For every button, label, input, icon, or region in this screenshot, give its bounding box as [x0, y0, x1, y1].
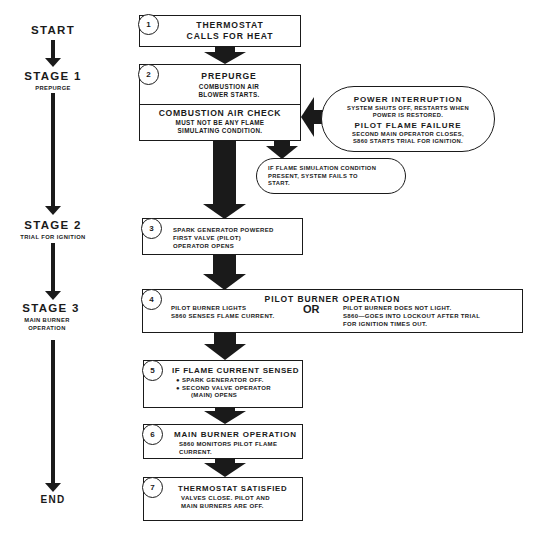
step-1-title-line-2: CALLS FOR HEAT	[160, 31, 300, 42]
step-6-number-badge: 6	[142, 424, 163, 445]
step-2-number-badge: 2	[138, 64, 159, 85]
step-2-box: PREPURGE COMBUSTION AIR BLOWER STARTS. C…	[139, 64, 301, 141]
arrow-down-icon	[266, 140, 298, 159]
step-7-line-1: VALVES CLOSE. PILOT AND	[181, 495, 270, 503]
power-interruption-title: POWER INTERRUPTION	[322, 95, 494, 104]
pilot-flame-failure-title: PILOT FLAME FAILURE	[322, 121, 494, 130]
step-4-left-line-1: PILOT BURNER LIGHTS	[171, 304, 274, 312]
step-4-left-line-2: S860 SENSES FLAME CURRENT.	[171, 312, 274, 320]
step-5-number-badge: 5	[142, 360, 163, 381]
step-5-box: IF FLAME CURRENT SENSED ● SPARK GENERATO…	[143, 360, 303, 408]
step-6-box: MAIN BURNER OPERATION S860 MONITORS PILO…	[143, 424, 303, 459]
step-2-title: PREPURGE	[158, 71, 300, 81]
arrow-down-icon	[203, 254, 246, 290]
combustion-air-check-line-2: SIMULATING CONDITION.	[140, 127, 300, 135]
step-1-box: THERMOSTAT CALLS FOR HEAT	[139, 15, 301, 47]
flame-simulation-note: IF FLAME SIMULATION CONDITION PRESENT, S…	[256, 158, 406, 194]
arrow-down-icon	[204, 46, 246, 64]
step-5-continuation: (MAIN) OPENS	[176, 392, 271, 400]
pilot-flame-failure-line-1: SECOND MAIN OPERATOR CLOSES,	[322, 131, 494, 138]
step-7-title: THERMOSTAT SATISFIED	[178, 484, 287, 493]
combustion-air-check-title: COMBUSTION AIR CHECK	[140, 108, 300, 118]
arrow-down-icon	[204, 407, 246, 424]
step-4-title: PILOT BURNER OPERATION	[143, 294, 522, 304]
flame-sim-line-2: PRESENT, SYSTEM FAILS TO	[268, 173, 376, 181]
step-3-box: SPARK GENERATOR POWERED FIRST VALVE (PIL…	[142, 218, 303, 255]
step-7-box: THERMOSTAT SATISFIED VALVES CLOSE. PILOT…	[143, 477, 303, 521]
combustion-air-check-line-1: MUST NOT BE ANY FLAME	[140, 119, 300, 127]
arrow-down-icon	[203, 140, 246, 219]
step-4-right-line-3: FOR IGNITION TIMES OUT.	[343, 320, 480, 328]
step-7-line-2: MAIN BURNERS ARE OFF.	[181, 503, 270, 511]
step-6-title: MAIN BURNER OPERATION	[174, 430, 297, 439]
divider	[140, 104, 300, 105]
step-3-line-2: FIRST VALVE (PILOT)	[173, 234, 274, 242]
step-4-number-badge: 4	[141, 289, 162, 310]
flame-sim-line-3: START.	[268, 180, 376, 188]
step-1-title-line-1: THERMOSTAT	[160, 20, 300, 31]
step-5-title: IF FLAME CURRENT SENSED	[172, 366, 299, 375]
step-6-line-2: CURRENT.	[179, 449, 277, 457]
step-7-number-badge: 7	[142, 477, 163, 498]
power-interruption-line-1: SYSTEM SHUTS OFF, RESTARTS WHEN	[322, 105, 494, 112]
pilot-flame-failure-line-2: S860 STARTS TRIAL FOR IGNITION.	[322, 138, 494, 145]
step-5-bullet-2: ● SECOND VALVE OPERATOR	[176, 385, 271, 393]
interrupt-note: POWER INTERRUPTION SYSTEM SHUTS OFF, RES…	[321, 86, 495, 152]
step-3-number-badge: 3	[141, 218, 162, 239]
step-4-right-line-2: S860—GOES INTO LOCKOUT AFTER TRIAL	[343, 312, 480, 320]
step-4-right-line-1: PILOT BURNER DOES NOT LIGHT.	[343, 304, 480, 312]
step-4-box: PILOT BURNER OPERATION PILOT BURNER LIGH…	[142, 289, 523, 333]
step-6-line-1: S860 MONITORS PILOT FLAME	[179, 441, 277, 449]
step-2-body-line-2: BLOWER STARTS.	[158, 91, 300, 99]
step-2-body-line-1: COMBUSTION AIR	[158, 83, 300, 91]
step-5-bullet-1: ● SPARK GENERATOR OFF.	[176, 377, 271, 385]
step-3-line-3: OPERATOR OPENS	[173, 242, 274, 250]
power-interruption-line-2: POWER IS RESTORED.	[322, 112, 494, 119]
or-label: OR	[303, 303, 320, 315]
arrow-down-icon	[204, 332, 246, 360]
step-1-number-badge: 1	[138, 14, 159, 35]
arrow-down-icon	[204, 458, 246, 477]
flame-sim-line-1: IF FLAME SIMULATION CONDITION	[268, 165, 376, 173]
step-3-line-1: SPARK GENERATOR POWERED	[173, 226, 274, 234]
